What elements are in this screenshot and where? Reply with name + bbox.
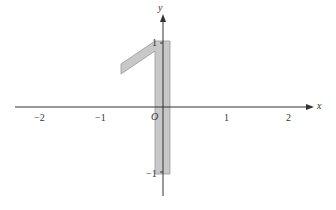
x-tick-2: 2 bbox=[286, 113, 291, 123]
x-axis-label: x bbox=[317, 101, 321, 111]
x-axis-arrow-icon bbox=[306, 104, 314, 110]
x-tick-neg1: −1 bbox=[95, 113, 106, 123]
y-tick-neg1: −1 bbox=[146, 169, 157, 179]
origin-label: O bbox=[151, 112, 158, 122]
y-axis-label: y bbox=[158, 3, 162, 13]
y-axis-arrow-icon bbox=[160, 14, 166, 22]
diagram-canvas bbox=[0, 0, 336, 210]
x-tick-neg2: −2 bbox=[34, 113, 45, 123]
coordinate-diagram: x y O −2 −1 1 2 1 −1 bbox=[0, 0, 336, 210]
y-tick-1: 1 bbox=[152, 38, 157, 48]
x-tick-1: 1 bbox=[224, 113, 229, 123]
